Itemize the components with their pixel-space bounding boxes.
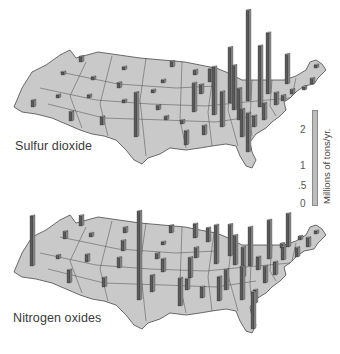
bar-maryland [273,261,278,275]
bar-kansas [161,258,166,272]
nitrogen-oxides-map [0,0,340,354]
bar-massachusetts [306,237,311,247]
bar-montana [123,226,128,233]
bar-south-dakota [161,241,166,245]
bar-illinois [214,224,219,264]
bar-colorado [117,257,122,268]
bar-missouri [188,257,193,278]
bar-idaho [89,232,94,237]
bar-michigan [228,224,233,256]
bar-new-york [286,213,291,247]
bar-minnesota [193,223,198,238]
bar-north-dakota [169,225,174,233]
bar-virginia [263,265,268,283]
bar-wisconsin [206,227,211,242]
bar-oregon [63,231,68,239]
bar-rhode-island [298,235,303,240]
bar-nebraska [155,252,160,259]
nitrogen-oxides-label: Nitrogen oxides [13,311,101,325]
bar-connecticut [295,247,300,257]
bar-florida [251,291,256,329]
bar-new-jersey [281,246,286,260]
bar-texas [137,210,142,300]
bar-new-mexico [102,277,107,287]
bar-west-virginia [256,256,261,270]
bar-nevada [56,254,61,259]
bar-maine [314,230,319,234]
bar-oklahoma [150,274,155,292]
bar-wyoming [121,240,126,251]
bar-california [30,215,35,266]
bar-washington [79,215,84,226]
bar-mississippi [200,286,205,298]
bar-arkansas [185,278,190,290]
nitrogen-oxides-panel: Nitrogen oxides [0,0,340,354]
bar-georgia [240,266,245,300]
bar-pennsylvania [267,219,272,259]
bar-louisiana [178,277,183,306]
bar-tennessee [224,269,229,290]
bar-ohio [248,226,253,266]
bar-iowa [194,247,199,258]
bar-indiana [233,234,238,265]
bar-alabama [217,276,222,301]
bar-utah [85,254,90,262]
bar-arizona [67,269,72,283]
